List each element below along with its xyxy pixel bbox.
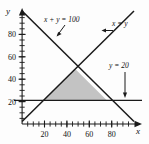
- y-tick-label-40: 40: [8, 75, 16, 84]
- annotation-arrow-x-equals-y: [102, 28, 114, 32]
- annotation-label-y-equals-20: y = 20: [108, 61, 129, 70]
- y-axis-arrowhead: [19, 8, 25, 16]
- y-tick-label-80: 80: [8, 30, 16, 39]
- x-tick-label-20: 20: [41, 130, 49, 139]
- y-axis-label: y: [5, 6, 10, 16]
- graph-canvas: 20 40 60 80 20 40 60 80 y x x + y = 100 …: [0, 0, 149, 144]
- annotation-label-x-equals-y: x = y: [111, 19, 128, 28]
- x-tick-label-80: 80: [108, 130, 116, 139]
- coordinate-plane-figure: 20 40 60 80 20 40 60 80 y x x + y = 100 …: [0, 0, 149, 144]
- annotation-arrow-x-plus-y-100: [57, 25, 65, 37]
- annotation-label-x-plus-y-100: x + y = 100: [43, 15, 80, 24]
- y-tick-label-60: 60: [8, 53, 16, 62]
- x-tick-label-60: 60: [85, 130, 93, 139]
- x-axis-label: x: [135, 126, 140, 136]
- x-tick-label-40: 40: [63, 130, 71, 139]
- y-tick-label-20: 20: [8, 98, 16, 107]
- annotation-arrow-y-equals-20: [123, 72, 127, 98]
